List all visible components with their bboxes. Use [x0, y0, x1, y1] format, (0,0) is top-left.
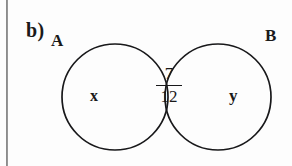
- intersection-fraction: 7 12: [152, 64, 186, 107]
- figure-canvas: b) A B x y 7 12: [0, 0, 292, 166]
- item-label: b): [26, 20, 45, 40]
- fraction-numerator: 7: [165, 64, 174, 84]
- fraction-bar: [156, 85, 182, 87]
- region-value-b-only: y: [229, 87, 238, 104]
- region-value-a-only: x: [90, 88, 98, 104]
- set-label-a: A: [51, 32, 63, 49]
- fraction-denominator: 12: [161, 87, 178, 107]
- set-label-b: B: [265, 27, 276, 44]
